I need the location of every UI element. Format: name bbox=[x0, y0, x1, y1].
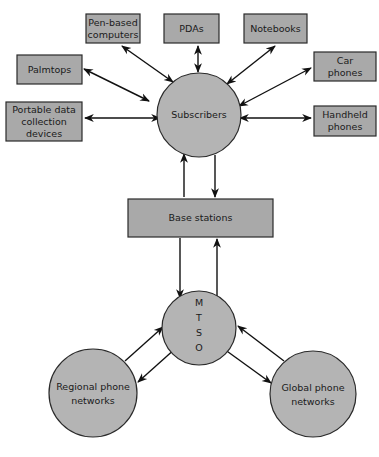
node-portable-data-collection-devices: Portable data collection devices bbox=[6, 102, 82, 141]
edge-pen-based-subscribers bbox=[122, 46, 173, 82]
svg-text:Notebooks: Notebooks bbox=[250, 23, 301, 34]
svg-text:T: T bbox=[195, 312, 202, 323]
svg-text:computers: computers bbox=[88, 29, 139, 40]
node-handheld-phones: Handheld phones bbox=[314, 106, 376, 136]
svg-text:Pen-based: Pen-based bbox=[88, 17, 137, 28]
edge-palmtops-subscribers bbox=[84, 69, 149, 101]
svg-text:networks: networks bbox=[71, 395, 115, 406]
node-pdas: PDAs bbox=[164, 14, 219, 43]
node-subscribers: Subscribers bbox=[157, 73, 241, 157]
edge-mtso-to-global bbox=[224, 349, 271, 383]
edge-mtso-to-regional bbox=[138, 348, 176, 382]
svg-text:collection: collection bbox=[21, 116, 67, 127]
node-global-phone-networks: Global phone networks bbox=[270, 351, 356, 437]
edge-regional-to-mtso bbox=[125, 327, 163, 361]
edge-global-to-mtso bbox=[238, 326, 284, 361]
edge-car-phones-subscribers bbox=[239, 68, 311, 106]
svg-text:Car: Car bbox=[337, 55, 353, 66]
node-regional-phone-networks: Regional phone networks bbox=[49, 349, 137, 437]
svg-text:Base stations: Base stations bbox=[169, 212, 233, 223]
svg-text:Palmtops: Palmtops bbox=[28, 64, 72, 75]
svg-text:networks: networks bbox=[291, 396, 335, 407]
node-pen-based-computers: Pen-based computers bbox=[86, 14, 140, 43]
cellular-network-diagram: Pen-based computers PDAs Notebooks Palmt… bbox=[0, 0, 379, 457]
svg-text:M: M bbox=[195, 297, 203, 308]
node-car-phones: Car phones bbox=[314, 52, 376, 81]
svg-text:phones: phones bbox=[328, 67, 363, 78]
svg-text:Regional phone: Regional phone bbox=[56, 381, 130, 392]
node-notebooks: Notebooks bbox=[244, 14, 307, 43]
svg-text:Global phone: Global phone bbox=[281, 382, 344, 393]
svg-text:phones: phones bbox=[328, 121, 363, 132]
node-base-stations: Base stations bbox=[128, 199, 273, 237]
svg-text:O: O bbox=[195, 342, 202, 353]
node-palmtops: Palmtops bbox=[17, 55, 82, 84]
node-mtso: M T S O bbox=[162, 291, 236, 365]
svg-text:PDAs: PDAs bbox=[179, 23, 203, 34]
svg-text:devices: devices bbox=[26, 128, 62, 139]
svg-text:Handheld: Handheld bbox=[322, 109, 368, 120]
svg-text:S: S bbox=[196, 327, 202, 338]
edge-notebooks-subscribers bbox=[227, 46, 275, 84]
svg-text:Subscribers: Subscribers bbox=[171, 109, 227, 120]
svg-text:Portable data: Portable data bbox=[12, 104, 76, 115]
